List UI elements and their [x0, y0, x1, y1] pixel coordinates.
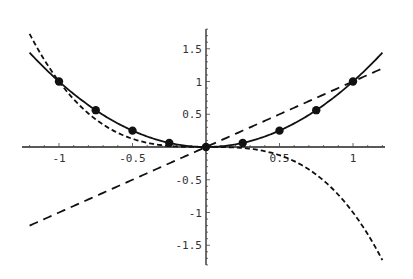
data-point	[312, 106, 320, 114]
data-point	[202, 143, 210, 151]
data-point	[165, 139, 173, 147]
y-tick-label: 1	[195, 76, 202, 89]
data-point	[92, 106, 100, 114]
data-point	[349, 77, 357, 85]
chart: -1-0.50.511.510.5-0.5-1-1.5	[0, 0, 413, 279]
y-tick-label: 0.5	[182, 108, 202, 121]
data-point	[239, 139, 247, 147]
x-tick-label: 1	[350, 152, 357, 165]
y-tick-label: -0.5	[176, 174, 203, 187]
x-tick-label: -0.5	[119, 152, 146, 165]
data-point	[55, 77, 63, 85]
data-point	[275, 126, 283, 134]
y-tick-label: 1.5	[182, 43, 202, 56]
x-tick-label: -1	[52, 152, 65, 165]
y-tick-label: -1.5	[176, 239, 203, 252]
y-tick-label: -1	[189, 207, 202, 220]
data-point	[128, 126, 136, 134]
